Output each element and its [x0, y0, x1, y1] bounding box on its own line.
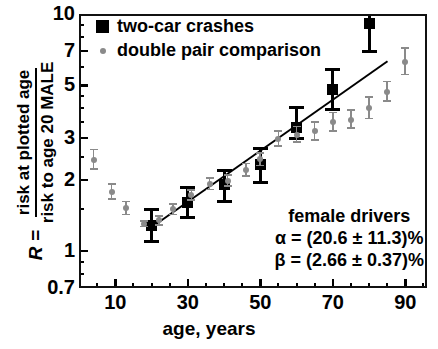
y-tick-label: 1 — [64, 240, 75, 260]
annotation-line-beta: β = (2.66 ± 0.37)% — [275, 250, 424, 272]
x-axis-title: age, years — [0, 318, 438, 340]
y-tick-label: 2 — [64, 169, 75, 189]
x-tick-label: 50 — [249, 292, 271, 312]
chart-figure: R = risk at plotted age risk to age 20 M… — [0, 0, 438, 349]
y-tick-label: 7 — [64, 40, 75, 60]
x-tick-label: 70 — [322, 292, 344, 312]
annotation-block: female drivers α = (20.6 ± 11.3)% β = (2… — [275, 206, 424, 272]
x-tick-label: 10 — [104, 292, 126, 312]
y-tick-label: 5 — [64, 74, 75, 94]
legend-square-marker-icon — [96, 20, 109, 33]
y-tick-label: 3 — [64, 127, 75, 147]
x-axis-title-text: age, years — [163, 318, 256, 340]
legend-dot-marker-icon — [96, 48, 109, 54]
x-tick-label: 90 — [394, 292, 416, 312]
y-tick-label: 10 — [53, 3, 75, 23]
annotation-line-female-drivers: female drivers — [275, 206, 424, 228]
legend-label: two-car crashes — [117, 16, 254, 37]
chart-legend: two-car crashes double pair comparison — [96, 16, 321, 61]
legend-item-double-pair-comparison: double pair comparison — [96, 40, 321, 61]
annotation-line-alpha: α = (20.6 ± 11.3)% — [275, 228, 424, 250]
x-tick-label: 30 — [177, 292, 199, 312]
legend-label: double pair comparison — [117, 40, 321, 61]
x-axis-tick-labels: 1030507090 — [0, 292, 438, 320]
legend-item-two-car-crashes: two-car crashes — [96, 16, 321, 37]
